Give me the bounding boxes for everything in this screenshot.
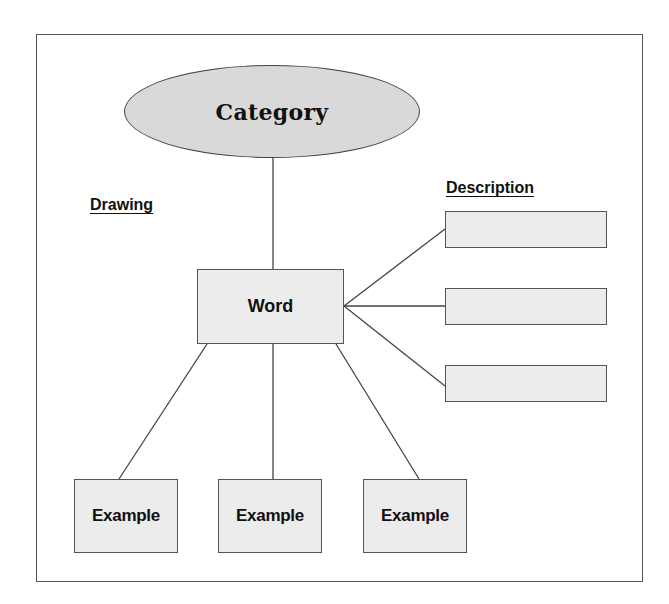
example-node-1: Example: [74, 479, 178, 553]
word-to-example-1-line: [119, 344, 207, 479]
description-box-1: [445, 211, 607, 248]
description-label: Description: [446, 179, 534, 197]
word-label: Word: [248, 296, 294, 317]
description-box-3: [445, 365, 607, 402]
example-node-2: Example: [218, 479, 322, 553]
word-to-description-1-line: [344, 229, 445, 306]
word-node: Word: [197, 269, 344, 344]
example-3-label: Example: [381, 506, 449, 526]
example-1-label: Example: [92, 506, 160, 526]
example-node-3: Example: [363, 479, 467, 553]
category-node: Category: [124, 65, 420, 158]
category-label: Category: [216, 99, 329, 125]
word-to-example-3-line: [336, 344, 419, 479]
description-box-2: [445, 288, 607, 325]
drawing-label: Drawing: [90, 196, 153, 214]
example-2-label: Example: [236, 506, 304, 526]
word-to-description-3-line: [344, 306, 445, 386]
